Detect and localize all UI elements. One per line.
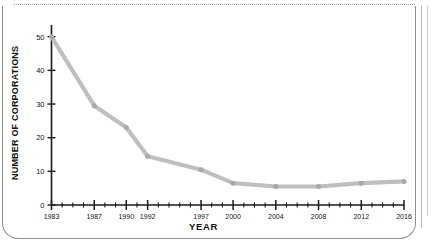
- x-tick-label: 1983: [44, 213, 60, 220]
- series-line: [52, 37, 405, 187]
- data-point-marker: [316, 184, 321, 189]
- line-chart: NUMBER OF CORPORATIONS YEAR 010203040501…: [0, 0, 431, 244]
- y-tick-label: 20: [36, 133, 44, 142]
- scanned-page: NUMBER OF CORPORATIONS YEAR 010203040501…: [0, 0, 431, 244]
- data-point-marker: [145, 154, 150, 159]
- data-point-marker: [231, 181, 236, 186]
- x-tick-label: 2000: [225, 213, 241, 220]
- y-tick-label: 40: [36, 66, 44, 75]
- data-point-marker: [402, 179, 407, 184]
- y-tick-label: 50: [36, 33, 44, 42]
- y-tick-label: 10: [36, 167, 44, 176]
- data-point-marker: [124, 125, 129, 130]
- x-tick-label: 1992: [140, 213, 156, 220]
- x-tick-label: 2008: [311, 213, 327, 220]
- data-point-marker: [49, 34, 54, 39]
- x-tick-label: 2004: [268, 213, 284, 220]
- x-tick-label: 1990: [118, 213, 134, 220]
- y-tick-label: 0: [40, 201, 44, 210]
- data-point-marker: [359, 181, 364, 186]
- data-point-marker: [92, 103, 97, 108]
- x-tick-label: 2012: [353, 213, 369, 220]
- data-point-marker: [273, 184, 278, 189]
- plot-area: 0102030405019831987199019921997200020042…: [0, 0, 431, 244]
- x-tick-label: 1997: [193, 213, 209, 220]
- x-tick-label: 1987: [86, 213, 102, 220]
- data-point-marker: [199, 167, 204, 172]
- x-tick-label: 2016: [396, 213, 412, 220]
- y-tick-label: 30: [36, 100, 44, 109]
